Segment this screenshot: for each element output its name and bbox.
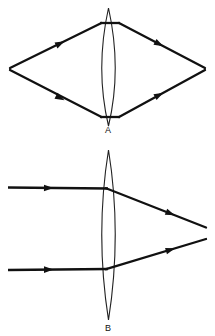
lower-parallel-incident-ray-b xyxy=(8,269,108,270)
arrowhead-upper-converging-b xyxy=(165,209,176,219)
arrowhead-upper-parallel-b xyxy=(44,185,54,192)
arrowhead-upper-refracted-a xyxy=(153,39,164,49)
upper-incident-ray-a xyxy=(10,23,102,68)
lens-ray-diagram-figure: A B xyxy=(0,0,215,336)
upper-converging-ray-b xyxy=(106,188,206,227)
diagram-a-group: A xyxy=(10,8,205,135)
lower-converging-ray-b xyxy=(106,239,206,269)
lens-b-label: B xyxy=(105,323,111,333)
lower-incident-ray-a xyxy=(10,70,102,117)
upper-parallel-incident-ray-b xyxy=(8,188,108,189)
ray-diagram-canvas: A B xyxy=(0,0,215,336)
lens-a-outline xyxy=(102,8,116,126)
lens-a-label: A xyxy=(105,125,111,135)
diagram-b-group: B xyxy=(8,150,206,333)
arrowhead-upper-incident-a xyxy=(55,38,66,48)
arrowhead-lower-parallel-b xyxy=(44,266,54,273)
lens-b-outline xyxy=(102,150,116,320)
